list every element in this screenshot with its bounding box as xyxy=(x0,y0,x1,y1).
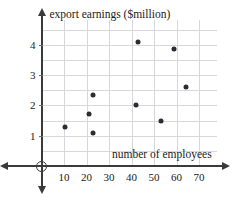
gridline-vertical xyxy=(132,20,133,166)
y-axis-down-arrow-icon xyxy=(38,186,46,194)
x-axis-tick-label: 40 xyxy=(126,172,137,183)
data-point xyxy=(86,112,91,117)
y-axis-tick-label: 3 xyxy=(30,70,36,81)
x-axis-tick-label: 10 xyxy=(59,172,70,183)
y-axis-tick-label: 2 xyxy=(30,100,36,111)
gridline-horizontal xyxy=(42,90,218,91)
data-point xyxy=(172,47,177,52)
y-axis-up-arrow-icon xyxy=(38,8,46,16)
y-axis-tick-label: 1 xyxy=(30,130,36,141)
y-axis-tick-mark xyxy=(39,136,43,137)
x-axis-right-arrow-icon xyxy=(222,162,230,170)
gridline-horizontal xyxy=(42,121,218,122)
y-axis-tick-mark xyxy=(39,45,43,46)
gridline-vertical xyxy=(154,20,155,166)
y-axis-tick-label: 4 xyxy=(30,39,36,50)
x-axis-tick-label: 50 xyxy=(149,172,160,183)
gridline-vertical xyxy=(109,20,110,166)
x-axis-tick-label: 70 xyxy=(194,172,205,183)
data-point xyxy=(183,85,188,90)
x-axis-tick-label: 30 xyxy=(104,172,115,183)
gridline-vertical xyxy=(87,20,88,166)
data-point xyxy=(91,92,96,97)
data-point xyxy=(134,103,139,108)
gridline-vertical xyxy=(64,20,65,166)
x-axis-tick-label: 60 xyxy=(171,172,182,183)
y-axis-tick-mark xyxy=(39,105,43,106)
y-axis-tick-mark xyxy=(39,75,43,76)
x-axis-tick-label: 20 xyxy=(81,172,92,183)
data-point xyxy=(158,118,163,123)
data-point xyxy=(63,124,68,129)
x-axis-left-arrow-icon xyxy=(0,162,8,170)
gridline-horizontal xyxy=(42,30,218,31)
y-axis-title: export earnings ($million) xyxy=(50,8,171,20)
gridline-horizontal xyxy=(42,105,218,106)
gridline-vertical xyxy=(177,20,178,166)
gridline-horizontal xyxy=(42,45,218,46)
x-axis-title: number of employees xyxy=(112,148,212,160)
data-point xyxy=(136,39,141,44)
gridline-horizontal xyxy=(42,60,218,61)
gridline-horizontal xyxy=(42,75,218,76)
origin-marker-icon xyxy=(36,161,47,172)
gridline-horizontal xyxy=(42,136,218,137)
gridline-vertical xyxy=(199,20,200,166)
scatter-plot-figure: 102030405060701234 export earnings ($mil… xyxy=(0,0,239,197)
data-point xyxy=(91,130,96,135)
